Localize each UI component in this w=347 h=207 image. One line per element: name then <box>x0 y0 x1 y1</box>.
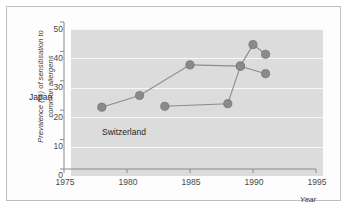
data-point-switzerland-1989 <box>236 62 244 70</box>
series-line-japan <box>98 41 270 112</box>
switzerland-polyline <box>165 66 266 106</box>
series-line-switzerland <box>161 62 270 110</box>
japan-polyline <box>102 45 266 108</box>
data-point-japan-1981 <box>136 91 144 99</box>
data-point-switzerland-1988 <box>224 100 232 108</box>
chart-svg-layer <box>0 0 347 207</box>
data-point-switzerland-1991 <box>262 70 270 78</box>
chart-figure: 50 40 30 20 10 0 1975 1980 1985 1990 199… <box>0 0 347 207</box>
data-point-japan-1990 <box>249 41 257 49</box>
data-point-japan-1985 <box>186 61 194 69</box>
data-point-japan-1978 <box>98 103 106 111</box>
data-point-switzerland-1983 <box>161 102 169 110</box>
data-point-japan-1991 <box>262 50 270 58</box>
